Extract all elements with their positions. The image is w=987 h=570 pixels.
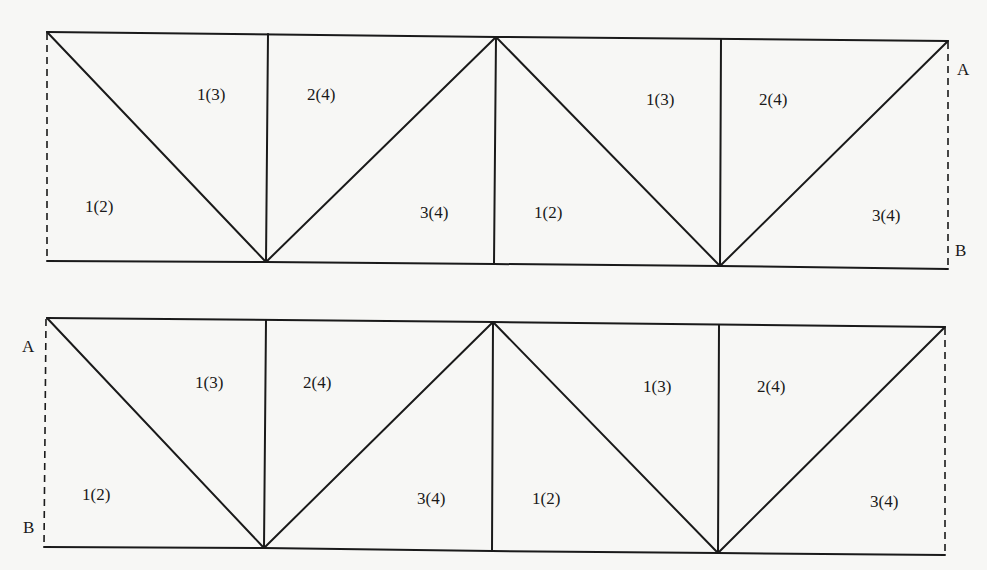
top-strip-bottom-edge <box>47 261 948 269</box>
bottom-strip-diagram: A B 1(3) 2(4) 1(2) 3(4) 1(2) 1(3) 2(4) 3… <box>22 318 945 555</box>
fold-diagram-canvas: A B 1(3) 2(4) 1(2) 3(4) 1(2) 1(3) 2(4) 3… <box>0 0 987 570</box>
top-strip-region-label: 1(3) <box>197 85 225 104</box>
bottom-strip-region-label: 1(3) <box>195 373 223 392</box>
top-strip-region-label: 3(4) <box>420 203 448 222</box>
top-strip-region-label: 2(4) <box>307 85 335 104</box>
top-strip-region-label: 2(4) <box>759 90 787 109</box>
top-strip-end-label-b: B <box>955 241 966 260</box>
top-strip-end-label-a: A <box>957 60 970 79</box>
bottom-strip-diagonal-3 <box>493 322 718 553</box>
top-strip-region-label: 1(2) <box>85 197 113 216</box>
bottom-strip-vertical-2 <box>492 322 493 551</box>
top-strip-region-label: 1(3) <box>646 90 674 109</box>
bottom-strip-end-label-b: B <box>23 518 34 537</box>
bottom-strip-diagonal-1 <box>47 318 264 548</box>
top-strip-vertical-3 <box>720 39 721 266</box>
bottom-strip-region-label: 3(4) <box>870 492 898 511</box>
top-strip-diagonal-2 <box>266 37 496 262</box>
bottom-strip-diagonal-4 <box>718 327 945 553</box>
top-strip-vertical-1 <box>266 34 268 262</box>
bottom-strip-left-dashed-edge <box>44 319 46 546</box>
top-strip-diagonal-3 <box>496 37 720 266</box>
bottom-strip-vertical-3 <box>718 325 719 553</box>
bottom-strip-region-label: 2(4) <box>757 377 785 396</box>
bottom-strip-diagonal-2 <box>264 322 493 548</box>
top-strip-diagonal-4 <box>720 41 948 266</box>
top-strip-diagonal-1 <box>47 32 266 262</box>
bottom-strip-region-label: 2(4) <box>303 373 331 392</box>
bottom-strip-region-label: 3(4) <box>417 489 445 508</box>
top-strip-vertical-2 <box>494 37 496 264</box>
bottom-strip-vertical-1 <box>264 320 266 548</box>
bottom-strip-region-label: 1(2) <box>532 489 560 508</box>
bottom-strip-region-label: 1(2) <box>82 485 110 504</box>
top-strip-diagram: A B 1(3) 2(4) 1(2) 3(4) 1(2) 1(3) 2(4) 3… <box>47 32 970 269</box>
bottom-strip-region-label: 1(3) <box>643 377 671 396</box>
top-strip-region-label: 1(2) <box>534 203 562 222</box>
bottom-strip-bottom-edge <box>44 547 945 555</box>
top-strip-region-label: 3(4) <box>872 206 900 225</box>
bottom-strip-end-label-a: A <box>22 337 35 356</box>
